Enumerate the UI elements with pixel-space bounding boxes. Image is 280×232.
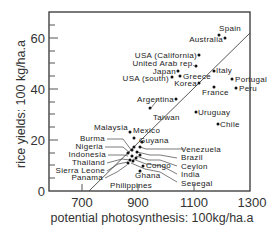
label-usa-south: USA (south) (123, 74, 169, 83)
label-korea: Korea (174, 79, 197, 88)
point-labels: Spain Australia USA (California) United … (56, 24, 268, 190)
y-tick-label: 0 (38, 184, 45, 199)
x-tick-label: 900 (127, 195, 149, 210)
label-peru: Peru (239, 84, 257, 93)
label-italy: Italy (216, 66, 232, 75)
x-tick-label: 1100 (180, 195, 208, 210)
label-congo: Congo (146, 161, 171, 170)
label-ghana: Ghana (135, 171, 161, 180)
scatter-chart: 60 40 20 0 700 900 1100 1300 potential p… (0, 0, 280, 232)
label-chile: Chile (220, 120, 240, 129)
label-guyana: Guyana (139, 136, 169, 145)
x-tick-label: 1300 (238, 195, 267, 210)
label-uruguay: Uruguay (198, 108, 230, 117)
y-tick-label: 20 (31, 133, 45, 148)
label-panama: Panama (71, 173, 103, 182)
y-axis-title: rice yields: 100 kg/ha.a (14, 40, 28, 168)
label-taiwan: Taiwan (153, 113, 180, 122)
label-senegal: Senegal (181, 179, 212, 188)
label-malaysia: Malaysia (94, 123, 128, 132)
label-france: France (202, 88, 229, 97)
label-mexico: Mexico (133, 126, 160, 135)
label-philippines: Philippines (110, 181, 152, 190)
x-axis-title: potential photosynthesis: 100kg/ha.a (51, 211, 254, 225)
label-portugal: Portugal (235, 75, 267, 84)
y-tick-label: 60 (31, 31, 45, 46)
label-australia: Australia (189, 35, 223, 44)
label-spain: Spain (219, 24, 241, 33)
x-tick-label: 700 (71, 195, 93, 210)
label-india: India (181, 170, 200, 179)
y-tick-label: 40 (31, 82, 45, 97)
label-brazil: Brazil (181, 153, 203, 162)
label-argentina: Argentina (137, 95, 174, 104)
y-axis-ticks (49, 25, 58, 178)
